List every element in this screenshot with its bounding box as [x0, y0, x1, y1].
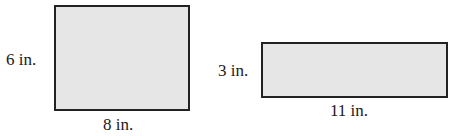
- rectangle-a-height-label: 6 in.: [6, 51, 36, 69]
- rectangle-a-width-label: 8 in.: [103, 116, 133, 134]
- rectangle-b-height-label: 3 in.: [218, 62, 248, 80]
- rectangle-a: [54, 5, 190, 111]
- rectangle-b-width-label: 11 in.: [330, 102, 368, 120]
- rectangle-b: [261, 42, 448, 98]
